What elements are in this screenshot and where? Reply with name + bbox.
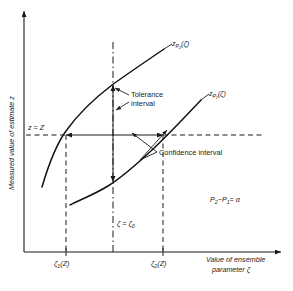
y-axis-label: Measured value of estimate z xyxy=(7,96,16,190)
svg-text:P2−P1= α: P2−P1= α xyxy=(210,195,241,205)
upper-curve-label: zP₂(ζ) xyxy=(171,39,189,49)
zeta0-label-sub: 0 xyxy=(132,223,135,229)
zeta0-label: ζ = ζ0 xyxy=(117,219,135,229)
svg-text:zP₁(ζ): zP₁(ζ) xyxy=(208,89,226,99)
tick-label-zeta1-arg: (Z) xyxy=(60,259,69,268)
svg-text:ζ1(Z): ζ1(Z) xyxy=(54,259,69,269)
lower-curve-label: zP₁(ζ) xyxy=(208,89,226,99)
tick-label-zeta1: ζ1(Z) xyxy=(54,259,69,269)
probability-relation-label: P2−P1= α xyxy=(210,195,241,205)
x-axis-label-line2: parameter ζ xyxy=(211,265,251,274)
tolerance-leader-upper xyxy=(115,88,129,95)
svg-text:ζ = ζ0: ζ = ζ0 xyxy=(117,219,135,229)
axis-group xyxy=(24,11,281,252)
lower-curve-label-leader xyxy=(201,94,209,100)
x-axis-label-line1: Value of ensemble xyxy=(206,255,265,264)
tolerance-interval-label-line2: interval xyxy=(131,99,155,108)
diagram-canvas: Measured value of estimate z Value of en… xyxy=(0,0,293,291)
tolerance-interval-label-line1: Tolerance xyxy=(131,90,163,99)
confidence-leader-left xyxy=(132,133,157,152)
upper-curve-label-leader xyxy=(164,44,172,49)
upper-curve-label-arg: (ζ) xyxy=(181,39,189,48)
figure-container: Measured value of estimate z Value of en… xyxy=(0,0,293,291)
svg-text:zP₂(ζ): zP₂(ζ) xyxy=(171,39,189,49)
svg-text:ζ2(Z): ζ2(Z) xyxy=(151,259,166,269)
confidence-interval-label: Confidence interval xyxy=(159,148,223,157)
prob-alpha: = α xyxy=(230,195,241,204)
tick-label-zeta2: ζ2(Z) xyxy=(151,259,166,269)
z-equals-Z-label: z = Z xyxy=(27,123,45,132)
zeta0-label-main: ζ = ζ xyxy=(117,219,133,228)
lower-curve-label-arg: (ζ) xyxy=(218,89,226,98)
upper-curve xyxy=(42,49,164,187)
tolerance-leader-lower xyxy=(116,102,129,110)
reference-lines-group xyxy=(26,42,262,252)
leader-lines-group xyxy=(115,44,209,160)
tick-label-zeta2-arg: (Z) xyxy=(157,259,166,268)
